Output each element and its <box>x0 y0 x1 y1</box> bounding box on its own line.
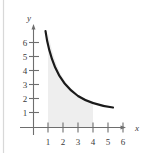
y-tick-label-4: 4 <box>23 66 28 76</box>
x-tick-label-3: 3 <box>76 137 81 147</box>
x-tick-label-1: 1 <box>46 137 51 147</box>
y-axis-label: y <box>26 13 31 23</box>
y-tick-label-5: 5 <box>23 52 28 62</box>
x-tick-label-5: 5 <box>106 137 111 147</box>
y-tick-label-3: 3 <box>23 80 28 90</box>
x-tick-label-6: 6 <box>121 137 126 147</box>
graph-figure: 6 5 4 3 2 1 1 2 3 4 5 6 y x <box>0 0 146 153</box>
figure-background <box>0 0 146 153</box>
x-tick-label-2: 2 <box>61 137 66 147</box>
y-tick-label-1: 1 <box>23 108 28 118</box>
y-tick-label-6: 6 <box>23 38 28 48</box>
x-axis-label: x <box>134 123 139 133</box>
y-tick-label-2: 2 <box>23 94 28 104</box>
x-tick-label-4: 4 <box>91 137 96 147</box>
